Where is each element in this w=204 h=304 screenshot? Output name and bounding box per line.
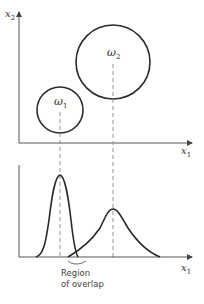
class-omega1-label: ω1 [54,96,67,110]
bottom-x-axis-label: x1 [181,263,191,276]
annotation-line-1: Region [61,268,104,279]
overlap-brace [68,261,86,264]
top-x-axis-label: x1 [181,146,191,159]
class-omega2-label: ω2 [107,47,120,61]
density-curve-omega2 [68,209,160,257]
overlap-annotation: Region of overlap [61,268,104,290]
annotation-line-2: of overlap [61,279,104,290]
class-overlap-diagram [0,0,204,304]
density-curve-omega1 [36,175,78,257]
top-y-axis-label: x2 [5,9,15,22]
